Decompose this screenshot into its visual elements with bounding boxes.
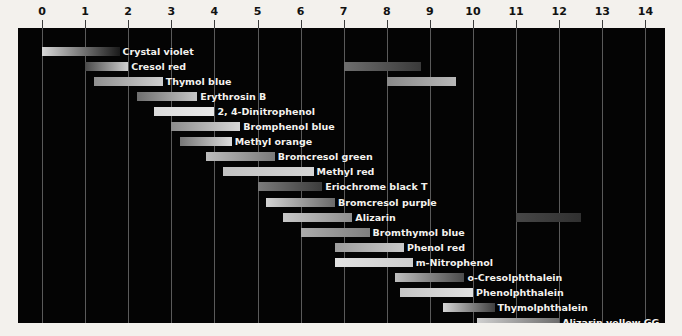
indicator-row: Methyl red	[18, 165, 665, 180]
x-tick-mark-12	[559, 20, 560, 28]
x-tick-label-12: 12	[552, 5, 567, 18]
x-tick-mark-9	[430, 20, 431, 28]
indicator-range-bar	[94, 77, 163, 86]
indicator-label: Crystal violet	[123, 45, 194, 58]
x-tick-label-3: 3	[167, 5, 175, 18]
x-tick-mark-13	[602, 20, 603, 28]
x-tick-mark-6	[301, 20, 302, 28]
plot-area: Crystal violetCresol redThymol blueEryth…	[18, 28, 665, 323]
indicator-range-bar	[335, 243, 404, 252]
indicator-label: Methyl red	[317, 165, 375, 178]
indicator-label: Bromcresol purple	[338, 196, 437, 209]
indicator-label: Eriochrome black T	[325, 180, 427, 193]
x-tick-label-10: 10	[465, 5, 480, 18]
indicator-range-bar	[400, 288, 473, 297]
indicator-label: Thymolphthalein	[498, 301, 588, 314]
indicator-range-bar	[137, 92, 197, 101]
indicator-row: Phenolphthalein	[18, 286, 665, 301]
indicator-label: Phenolphthalein	[476, 286, 564, 299]
indicator-range-bar	[301, 228, 370, 237]
indicator-row: Thymol blue	[18, 75, 665, 90]
x-tick-label-14: 14	[638, 5, 653, 18]
indicator-row: Bromcresol purple	[18, 196, 665, 211]
indicator-row: Eriochrome black T	[18, 180, 665, 195]
indicator-row: o-Cresolphthalein	[18, 271, 665, 286]
indicator-label: Cresol red	[131, 60, 186, 73]
x-tick-label-0: 0	[38, 5, 46, 18]
x-tick-mark-11	[516, 20, 517, 28]
indicator-label: Bromphenol blue	[243, 120, 334, 133]
indicator-label: Methyl orange	[235, 135, 313, 148]
indicator-range-bar	[42, 47, 120, 56]
indicator-label: o-Cresolphthalein	[467, 271, 562, 284]
x-tick-label-5: 5	[254, 5, 262, 18]
x-tick-mark-0	[42, 20, 43, 28]
indicator-row: Phenol red	[18, 241, 665, 256]
indicator-range-bar	[180, 137, 232, 146]
indicator-range-bar	[344, 62, 422, 71]
x-tick-label-1: 1	[81, 5, 89, 18]
indicator-range-bar	[266, 198, 335, 207]
indicator-label: Alizarin yellow GG	[562, 316, 659, 323]
indicator-range-bar	[283, 213, 352, 222]
x-tick-mark-8	[387, 20, 388, 28]
indicator-label: Thymol blue	[166, 75, 232, 88]
x-tick-label-6: 6	[297, 5, 305, 18]
indicator-range-bar	[154, 107, 214, 116]
indicator-range-bar	[206, 152, 275, 161]
indicator-range-bar	[171, 122, 240, 131]
ph-indicator-chart: 01234567891011121314 Crystal violetCreso…	[0, 0, 682, 336]
indicator-range-bar	[387, 77, 456, 86]
indicator-row: Bromthymol blue	[18, 226, 665, 241]
indicator-row: Alizarin yellow GG	[18, 316, 665, 323]
indicator-range-bar	[395, 273, 464, 282]
indicator-row: Erythrosin B	[18, 90, 665, 105]
indicator-row: 2, 4-Dinitrophenol	[18, 105, 665, 120]
indicator-range-bar	[85, 62, 128, 71]
indicator-range-bar	[443, 303, 495, 312]
indicator-range-bar	[258, 182, 323, 191]
indicator-label: Bromthymol blue	[373, 226, 465, 239]
indicator-label: 2, 4-Dinitrophenol	[217, 105, 315, 118]
indicator-label: Erythrosin B	[200, 90, 266, 103]
x-tick-mark-5	[258, 20, 259, 28]
x-tick-label-2: 2	[124, 5, 132, 18]
x-tick-mark-7	[344, 20, 345, 28]
indicator-range-bar	[516, 213, 581, 222]
x-tick-label-9: 9	[426, 5, 434, 18]
x-tick-label-8: 8	[383, 5, 391, 18]
indicator-label: Bromcresol green	[278, 150, 373, 163]
indicator-row: Thymolphthalein	[18, 301, 665, 316]
indicator-row: Bromphenol blue	[18, 120, 665, 135]
x-tick-mark-4	[214, 20, 215, 28]
indicator-range-bar	[223, 167, 314, 176]
indicator-row: Crystal violet	[18, 45, 665, 60]
indicator-row: Alizarin	[18, 211, 665, 226]
x-tick-label-7: 7	[340, 5, 348, 18]
indicator-row: Bromcresol green	[18, 150, 665, 165]
indicator-row: Cresol red	[18, 60, 665, 75]
indicator-row: m-Nitrophenol	[18, 256, 665, 271]
indicator-row: Methyl orange	[18, 135, 665, 150]
x-tick-mark-1	[85, 20, 86, 28]
indicator-label: m-Nitrophenol	[416, 256, 493, 269]
x-tick-mark-2	[128, 20, 129, 28]
indicator-range-bar	[335, 258, 413, 267]
indicator-label: Phenol red	[407, 241, 465, 254]
x-axis: 01234567891011121314	[0, 0, 682, 28]
x-tick-label-11: 11	[508, 5, 523, 18]
x-tick-label-4: 4	[211, 5, 219, 18]
x-tick-mark-10	[473, 20, 474, 28]
x-tick-label-13: 13	[595, 5, 610, 18]
x-tick-mark-3	[171, 20, 172, 28]
indicator-range-bar	[477, 318, 559, 323]
indicator-label: Alizarin	[355, 211, 396, 224]
x-tick-mark-14	[645, 20, 646, 28]
